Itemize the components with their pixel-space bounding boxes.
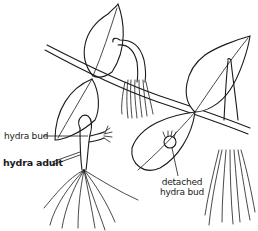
hydra-right-tentacles bbox=[205, 150, 255, 225]
hydra-adult-tentacles bbox=[44, 170, 138, 230]
label-detached-bud: hydra bud bbox=[158, 187, 206, 197]
hydra-diagram: hydra bud hydra adult detached hydra bud bbox=[0, 0, 258, 231]
label-detached: detached bbox=[158, 177, 206, 187]
label-hydra-adult: hydra adult bbox=[3, 158, 63, 168]
label-hydra-bud: hydra bud bbox=[4, 131, 48, 141]
leaf-lower-left bbox=[55, 79, 98, 140]
hydra-bud-tentacles bbox=[104, 126, 112, 142]
hydra-illustration bbox=[0, 0, 258, 231]
leaf-lower-right bbox=[132, 112, 195, 170]
hydra-bud bbox=[90, 132, 104, 136]
